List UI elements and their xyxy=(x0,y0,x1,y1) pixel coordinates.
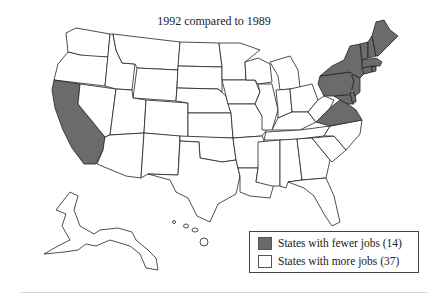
state-rhode-island xyxy=(372,66,376,72)
legend-label-fewer: States with fewer jobs (14) xyxy=(278,237,402,249)
state-hawaii-island-4 xyxy=(200,238,208,246)
state-hawaii-island-3 xyxy=(192,228,198,232)
state-hawaii-island-2 xyxy=(184,224,189,228)
state-mississippi xyxy=(256,140,280,186)
legend-item-more-jobs: States with more jobs (37) xyxy=(258,253,399,269)
legend-swatch-fewer xyxy=(258,237,272,250)
state-florida xyxy=(288,178,340,226)
legend-item-fewer-jobs: States with fewer jobs (14) xyxy=(258,235,402,251)
state-maine xyxy=(372,20,398,56)
legend-label-more: States with more jobs (37) xyxy=(278,255,399,267)
state-iowa xyxy=(222,80,260,104)
state-alaska xyxy=(44,192,158,270)
state-kansas xyxy=(188,113,233,138)
map-legend: States with fewer jobs (14) States with … xyxy=(249,231,419,273)
state-wyoming xyxy=(133,68,178,101)
bottom-divider xyxy=(20,292,428,293)
state-washington xyxy=(66,28,110,57)
state-wisconsin xyxy=(245,58,272,84)
legend-swatch-more xyxy=(258,255,272,268)
state-colorado xyxy=(144,100,188,137)
state-new-mexico xyxy=(141,133,180,178)
map-figure: 1992 compared to 1989 xyxy=(0,0,428,295)
state-michigan xyxy=(270,56,300,90)
state-hawaii-island-1 xyxy=(173,221,176,224)
state-north-dakota xyxy=(178,42,222,67)
state-new-york xyxy=(320,44,364,78)
